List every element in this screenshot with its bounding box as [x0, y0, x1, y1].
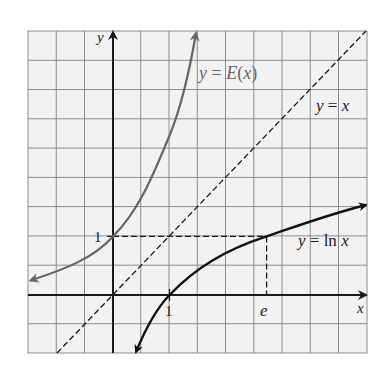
- label-exp-eq: =: [207, 63, 226, 83]
- label-id-x: x: [341, 96, 350, 115]
- tick-label-e: e: [260, 301, 268, 320]
- label-identity: y = x: [314, 96, 350, 115]
- label-exp-y: y: [197, 63, 207, 83]
- label-ln-x: x: [340, 231, 349, 250]
- label-ln-fn: ln: [324, 231, 338, 250]
- tick-label-y-1: 1: [94, 229, 102, 245]
- function-graph: y x 1 1 e y = E(x) y = x y = ln x: [0, 0, 391, 370]
- label-exp-x: x: [242, 63, 251, 83]
- label-id-y: y: [314, 96, 324, 115]
- label-ln: y = ln x: [296, 231, 349, 250]
- label-ln-y: y: [296, 231, 306, 250]
- label-exp-E: E: [225, 63, 237, 83]
- label-id-eq: =: [324, 96, 342, 115]
- label-exp-close: ): [251, 63, 257, 84]
- label-ln-eq: =: [306, 231, 324, 250]
- axis-label-y: y: [95, 29, 104, 45]
- axis-label-x: x: [356, 300, 364, 316]
- label-exp: y = E(x): [197, 63, 257, 84]
- tick-label-x-1: 1: [165, 303, 173, 319]
